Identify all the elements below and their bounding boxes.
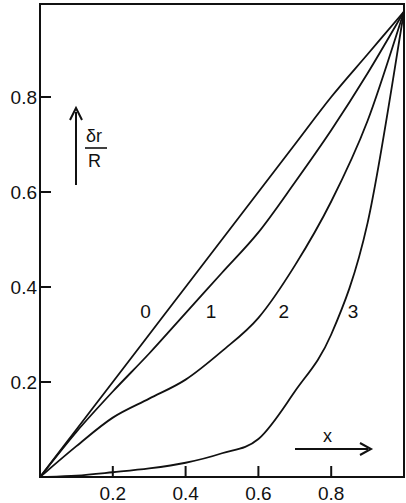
- x-tick-label: 0.8: [318, 483, 344, 503]
- y-axis-label: δr R: [70, 108, 107, 185]
- x-tick-label: 0.2: [100, 483, 126, 503]
- curves: [40, 12, 404, 478]
- chart: 0.20.40.60.8 0.20.40.60.8 0123 δr R x: [0, 0, 406, 503]
- x-tick-label: 0.6: [245, 483, 271, 503]
- y-tick-label: 0.4: [11, 277, 38, 298]
- y-label-denominator: R: [88, 151, 101, 171]
- curve-0: [40, 12, 404, 478]
- x-label: x: [323, 426, 332, 446]
- y-axis-ticks: 0.20.40.60.8: [11, 87, 51, 393]
- curve-label-2: 2: [279, 301, 290, 322]
- curve-label-3: 3: [348, 301, 359, 322]
- x-tick-label: 0.4: [172, 483, 199, 503]
- y-tick-label: 0.8: [11, 87, 37, 108]
- curve-label-1: 1: [206, 301, 217, 322]
- y-tick-label: 0.6: [11, 182, 37, 203]
- curve-label-0: 0: [140, 301, 151, 322]
- x-axis-ticks: 0.20.40.60.8: [100, 466, 345, 503]
- y-label-numerator: δr: [86, 126, 102, 146]
- x-axis-label: x: [295, 426, 371, 455]
- y-tick-label: 0.2: [11, 372, 37, 393]
